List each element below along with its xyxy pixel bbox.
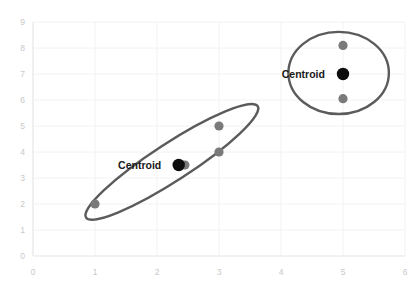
y-tick-label-4: 4 — [20, 147, 25, 157]
y-tick-label-6: 6 — [20, 95, 25, 105]
y-tick-label-2: 2 — [20, 199, 25, 209]
y-tick-label-1: 1 — [20, 225, 25, 235]
centroid-point — [173, 159, 185, 171]
y-tick-label-8: 8 — [20, 43, 25, 53]
scatter-plot-chart: 9 8 7 6 5 4 3 2 1 0 0 1 2 3 4 5 6 Centro… — [0, 0, 420, 296]
data-point — [338, 94, 347, 103]
data-point — [90, 199, 99, 208]
data-point — [214, 121, 223, 130]
y-tick-label-0: 0 — [20, 251, 25, 261]
data-point — [338, 41, 347, 50]
x-tick-label-1: 1 — [93, 267, 98, 277]
x-tick-label-3: 3 — [217, 267, 222, 277]
y-tick-label-3: 3 — [20, 173, 25, 183]
centroid-label-right: Centroid — [282, 68, 325, 80]
x-tick-label-5: 5 — [341, 267, 346, 277]
centroid-point — [337, 68, 349, 80]
x-tick-label-4: 4 — [279, 267, 284, 277]
plot-canvas: 9 8 7 6 5 4 3 2 1 0 0 1 2 3 4 5 6 Centro… — [0, 0, 420, 296]
y-tick-label-7: 7 — [20, 69, 25, 79]
data-point — [214, 147, 223, 156]
y-tick-label-5: 5 — [20, 121, 25, 131]
x-tick-label-2: 2 — [155, 267, 160, 277]
chart-background — [0, 0, 420, 296]
x-tick-label-6: 6 — [403, 267, 408, 277]
x-tick-label-0: 0 — [31, 267, 36, 277]
y-tick-label-9: 9 — [20, 17, 25, 27]
centroid-label-left: Centroid — [118, 159, 161, 171]
